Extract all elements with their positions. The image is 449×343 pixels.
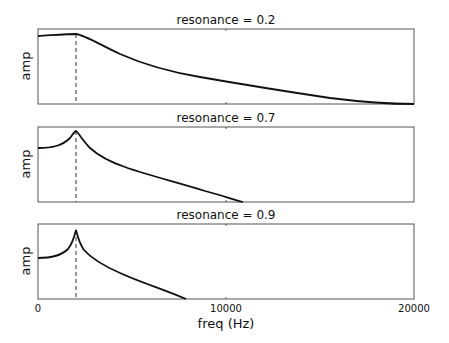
y-axis-label: amp [18,247,33,276]
plot-frame [38,127,414,202]
y-axis-label: amp [18,52,33,81]
panel-title: resonance = 0.7 [177,111,276,125]
response-curve [38,131,243,202]
panel-resonance-0-9: resonance = 0.9 amp 0 10000 20000 freq (… [18,208,430,331]
panel-title: resonance = 0.9 [177,208,276,222]
plot-frame [38,29,414,104]
x-tick-label-10000: 10000 [210,303,242,314]
x-axis-label: freq (Hz) [198,316,255,331]
response-curve [38,230,186,299]
panel-resonance-0-2: resonance = 0.2 amp [18,13,414,104]
panel-title: resonance = 0.2 [177,13,276,27]
y-axis-label: amp [18,150,33,179]
panel-resonance-0-7: resonance = 0.7 amp [18,111,414,202]
x-tick-label-20000: 20000 [398,303,430,314]
plot-frame [38,224,414,299]
response-curve [38,34,414,104]
chart-figure: resonance = 0.2 amp resonance = 0.7 amp … [0,0,449,343]
x-tick-label-0: 0 [35,303,41,314]
